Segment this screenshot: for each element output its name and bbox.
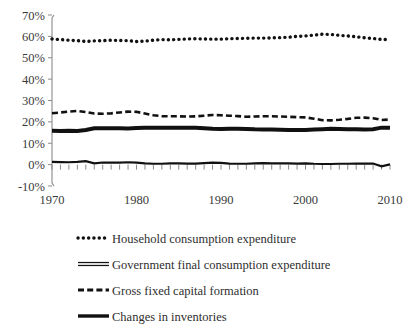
y-tick-label: 10% (22, 137, 45, 151)
x-tick-label: 2000 (293, 193, 318, 207)
y-tick-label: 30% (22, 94, 45, 108)
y-tick-label: 70% (22, 9, 45, 23)
y-tick-label: 60% (22, 30, 45, 44)
legend-label: Government final consumption expenditure (112, 258, 331, 272)
y-tick-label: 0% (28, 158, 45, 172)
legend-label: Changes in inventories (112, 310, 227, 324)
y-tick-label: 40% (22, 73, 45, 87)
chart-figure: 70%60%50%40%30%20%10%0%-10% 197019801990… (0, 0, 416, 334)
x-tick-label: 1990 (209, 193, 234, 207)
x-tick-label: 2010 (378, 193, 403, 207)
y-tick-label: 20% (22, 115, 45, 129)
legend-label: Household consumption expenditure (112, 232, 296, 246)
legend-item: Government final consumption expenditure (78, 258, 331, 272)
x-tick-label: 1980 (124, 193, 149, 207)
x-tick-label: 1970 (40, 193, 65, 207)
y-tick-label: -10% (18, 180, 45, 194)
y-tick-label: 50% (22, 51, 45, 65)
legend-label: Gross fixed capital formation (112, 284, 260, 298)
